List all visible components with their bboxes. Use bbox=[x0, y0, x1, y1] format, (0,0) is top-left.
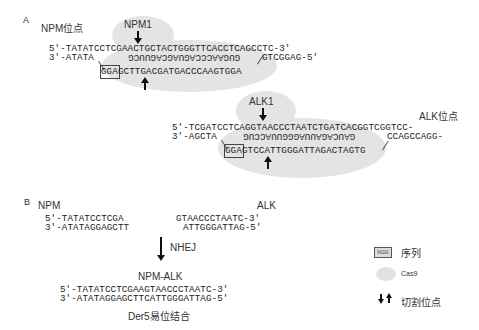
npm-locus-label: NPM位点 bbox=[41, 20, 83, 35]
npm1-guide-label: NPM1 bbox=[124, 19, 152, 30]
fusion-label: NPM-ALK bbox=[138, 271, 182, 282]
alk-target-strand: GTCCATTGGGATTAGACTAGTG bbox=[242, 146, 366, 155]
panel-b-label: B bbox=[24, 197, 30, 207]
legend-pam-box: NGG bbox=[374, 247, 392, 258]
legend-cas9-label: Cas9 bbox=[401, 270, 417, 277]
npm-guide-rna: GUGAACCCAGUAGCAGUUCG bbox=[128, 53, 240, 62]
npm-pam-seq: GGA bbox=[101, 67, 118, 76]
fusion-bottom-strand: 3′-ATATAGGAGCTTCATTGGGATTAG-5′ bbox=[60, 294, 228, 303]
alk-locus-label: ALK位点 bbox=[419, 108, 458, 123]
alk-guide-rna-text: GAUCAGAUUAGGGUUACCUG bbox=[243, 132, 355, 141]
legend-cut-label: 切割位点 bbox=[401, 294, 441, 309]
npm-bottom-right: GTCGGAG-5′ bbox=[262, 53, 318, 62]
alk-bottom-left: 3′-AGCTA bbox=[172, 132, 217, 141]
npm-fragment-bottom: 3′-ATATAGGAGCTT bbox=[45, 223, 129, 232]
alk-bottom-right: CCAGCCAGG- bbox=[387, 132, 443, 141]
alk-label: ALK bbox=[257, 200, 276, 211]
npm-label: NPM bbox=[38, 200, 60, 211]
panel-a-label: A bbox=[23, 15, 29, 25]
npm-bottom-left: 3′-ATATA bbox=[49, 53, 94, 62]
npm-target-strand: GCTTGACGATGACCCAAGTGGA bbox=[118, 67, 242, 76]
alk-guide-rna: GAUCAGAUUAGGGUUACCUG bbox=[243, 132, 355, 141]
legend-cas9-icon bbox=[376, 267, 396, 281]
npm-guide-rna-text: GUGAACCCAGUAGCAGUUCG bbox=[128, 53, 240, 62]
alk1-guide-label: ALK1 bbox=[249, 96, 273, 107]
nhej-label: NHEJ bbox=[170, 242, 196, 253]
legend-pam-label: 序列 bbox=[401, 245, 421, 260]
alk-pam-seq: GGA bbox=[225, 146, 242, 155]
der5-caption: Der5易位结合 bbox=[128, 308, 190, 323]
alk-fragment-bottom: ATTGGGATTAG-5′ bbox=[183, 223, 262, 232]
